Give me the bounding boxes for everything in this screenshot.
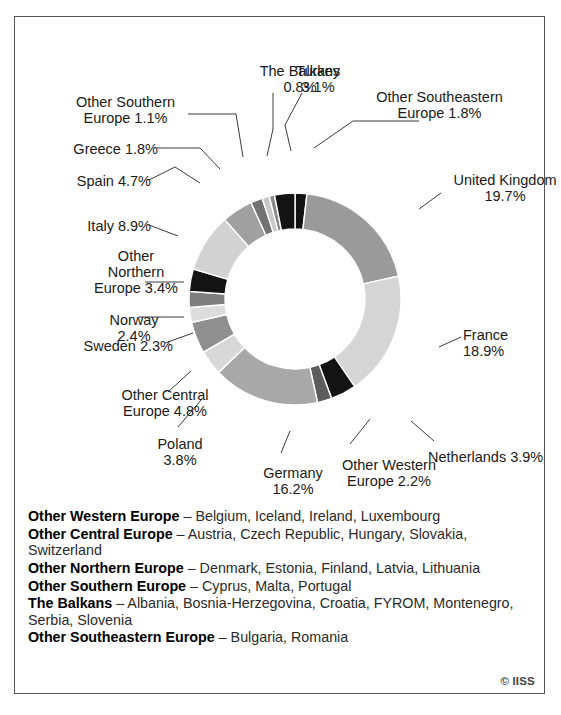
- leader-other-southeastern-europe: [314, 121, 419, 148]
- legend-members: Belgium, Iceland, Ireland, Luxembourg: [195, 508, 440, 524]
- leader-spain: [149, 167, 200, 183]
- legend-term: Other Southern Europe: [28, 578, 186, 594]
- slice-label-other-southeastern-europe: Other Southeastern Europe 1.8%: [352, 89, 527, 121]
- donut-slice-united-kingdom[interactable]: [303, 194, 399, 284]
- legend-term: Other Northern Europe: [28, 560, 184, 576]
- figure-frame: The Balkans 0.8%Turkey 3.1%Other Southea…: [14, 16, 545, 694]
- legend-row: Other Southeastern Europe – Bulgaria, Ro…: [28, 629, 533, 646]
- credit-line: © IISS: [500, 675, 535, 687]
- slice-label-other-northern-europe: Other Northern Europe 3.4%: [81, 248, 191, 297]
- leader-greece: [157, 148, 220, 169]
- legend-members: Denmark, Estonia, Finland, Latvia, Lithu…: [200, 560, 481, 576]
- slice-label-poland: Poland 3.8%: [140, 436, 220, 468]
- leader-other-western-europe: [350, 419, 370, 444]
- slice-label-spain: Spain 4.7%: [41, 173, 151, 189]
- slice-label-italy: Italy 8.9%: [41, 218, 151, 234]
- slice-label-greece: Greece 1.8%: [33, 141, 158, 157]
- legend-term: Other Western Europe: [28, 508, 179, 524]
- legend-definitions: Other Western Europe – Belgium, Iceland,…: [28, 508, 533, 647]
- donut-chart: The Balkans 0.8%Turkey 3.1%Other Southea…: [15, 17, 544, 497]
- leader-turkey: [285, 93, 302, 151]
- legend-dash: –: [112, 595, 127, 611]
- legend-dash: –: [184, 560, 200, 576]
- leader-the-balkans: [267, 93, 273, 156]
- legend-dash: –: [173, 526, 188, 542]
- leader-other-southern-europe: [188, 114, 243, 157]
- leader-france: [439, 337, 461, 347]
- leader-italy: [149, 225, 178, 236]
- legend-row: The Balkans – Albania, Bosnia-Herzegovin…: [28, 595, 533, 628]
- legend-members: Cyprus, Malta, Portugal: [202, 578, 351, 594]
- legend-term: Other Southeastern Europe: [28, 629, 215, 645]
- legend-row: Other Central Europe – Austria, Czech Re…: [28, 526, 533, 559]
- legend-members: Bulgaria, Romania: [231, 629, 349, 645]
- legend-dash: –: [179, 508, 195, 524]
- legend-term: Other Central Europe: [28, 526, 173, 542]
- slice-label-other-southern-europe: Other Southern Europe 1.1%: [58, 94, 193, 126]
- slice-label-germany: Germany 16.2%: [243, 465, 343, 497]
- slice-label-other-central-europe: Other Central Europe 4.8%: [100, 387, 230, 419]
- slice-label-norway: Norway 2.4%: [89, 312, 179, 344]
- slice-label-united-kingdom: United Kingdom 19.7%: [435, 172, 561, 204]
- slice-label-france: France 18.9%: [463, 327, 543, 359]
- donut-slice-france[interactable]: [334, 276, 401, 386]
- donut-slices: [189, 193, 401, 405]
- legend-row: Other Northern Europe – Denmark, Estonia…: [28, 560, 533, 577]
- legend-dash: –: [186, 578, 202, 594]
- leader-germany: [281, 431, 290, 453]
- leader-netherlands: [411, 421, 434, 441]
- legend-term: The Balkans: [28, 595, 112, 611]
- slice-label-other-western-europe: Other Western Europe 2.2%: [324, 457, 454, 489]
- legend-dash: –: [215, 629, 231, 645]
- legend-row: Other Western Europe – Belgium, Iceland,…: [28, 508, 533, 525]
- legend-row: Other Southern Europe – Cyprus, Malta, P…: [28, 578, 533, 595]
